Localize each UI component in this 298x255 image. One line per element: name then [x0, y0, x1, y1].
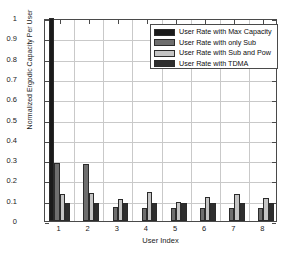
x-axis-tick — [118, 20, 119, 24]
x-axis-tick-label: 6 — [194, 225, 214, 233]
x-axis-tick — [89, 20, 90, 24]
y-axis-tick — [272, 122, 276, 123]
legend-swatch — [154, 60, 175, 67]
gridline-vertical — [74, 20, 75, 221]
legend-swatch — [154, 29, 175, 36]
y-axis-tick-label: 0.3 — [0, 157, 17, 165]
figure-canvas: Normalized Ergodic Capacity Per User 00.… — [0, 0, 298, 255]
gridline-horizontal — [45, 101, 276, 102]
bar — [65, 203, 70, 221]
y-axis-tick-label: 0.1 — [0, 198, 17, 206]
y-axis-tick — [272, 81, 276, 82]
gridline-horizontal — [45, 142, 276, 143]
gridline-vertical — [132, 20, 133, 221]
bar — [94, 203, 99, 221]
y-axis-tick-label: 0.7 — [0, 76, 17, 84]
legend-item: User Rate with Max Capacity — [154, 27, 274, 37]
y-axis-tick — [272, 182, 276, 183]
y-axis-tick-label: 0.4 — [0, 137, 17, 145]
x-axis-tick — [60, 20, 61, 24]
y-axis-tick-label: 0.5 — [0, 117, 17, 125]
y-axis-tick-label: 1 — [0, 15, 17, 23]
y-axis-tick — [272, 142, 276, 143]
legend-label: User Rate with Sub and Pow — [179, 49, 271, 57]
y-axis-tick — [45, 223, 49, 224]
bar — [152, 203, 157, 221]
legend-item: User Rate with Sub and Pow — [154, 48, 274, 58]
legend-swatch — [154, 50, 175, 57]
y-axis-tick-label: 0.8 — [0, 56, 17, 64]
legend-item: User Rate with TDMA — [154, 59, 274, 69]
legend-item: User Rate with only Sub — [154, 38, 274, 48]
y-axis-tick — [272, 101, 276, 102]
y-axis-tick-label: 0.2 — [0, 177, 17, 185]
bar — [269, 203, 274, 221]
y-axis-tick — [272, 162, 276, 163]
y-axis-tick-label: 0 — [0, 218, 17, 226]
bar — [181, 203, 186, 221]
legend-swatch — [154, 39, 175, 46]
gridline-vertical — [103, 20, 104, 221]
y-axis-tick-label: 0.6 — [0, 96, 17, 104]
x-axis-tick-label: 7 — [223, 225, 243, 233]
y-axis-title: Normalized Ergodic Capacity Per User — [26, 0, 33, 150]
x-axis-tick — [147, 20, 148, 24]
bar — [210, 203, 215, 221]
x-axis-tick-label: 2 — [78, 225, 98, 233]
gridline-horizontal — [45, 182, 276, 183]
x-axis-tick-label: 4 — [136, 225, 156, 233]
legend-label: User Rate with TDMA — [179, 60, 248, 68]
gridline-horizontal — [45, 81, 276, 82]
x-axis-tick-label: 8 — [252, 225, 272, 233]
y-axis-tick — [272, 20, 276, 21]
y-axis-tick — [272, 223, 276, 224]
legend-label: User Rate with only Sub — [179, 39, 256, 47]
x-axis-tick-label: 3 — [107, 225, 127, 233]
gridline-horizontal — [45, 162, 276, 163]
gridline-horizontal — [45, 122, 276, 123]
chart-legend: User Rate with Max CapacityUser Rate wit… — [150, 24, 278, 69]
bar — [123, 203, 128, 221]
x-axis-title: User Index — [44, 236, 277, 245]
bar — [240, 203, 245, 221]
x-axis-tick-label: 5 — [165, 225, 185, 233]
x-axis-tick-label: 1 — [49, 225, 69, 233]
y-axis-tick-label: 0.9 — [0, 35, 17, 43]
legend-label: User Rate with Max Capacity — [179, 28, 272, 36]
